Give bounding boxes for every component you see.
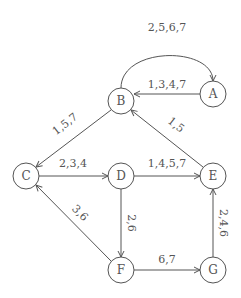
edge-label-g-e: 2,4,6 xyxy=(217,209,230,237)
svg-text:D: D xyxy=(116,169,126,183)
edge-label-c-d: 2,3,4 xyxy=(59,157,87,170)
node-c: C xyxy=(13,163,39,189)
svg-text:E: E xyxy=(209,169,218,183)
edge-f-c xyxy=(36,185,111,261)
edge-label-d-e: 1,4,5,7 xyxy=(148,157,186,170)
node-f: F xyxy=(108,257,134,283)
svg-text:F: F xyxy=(117,263,125,277)
svg-text:G: G xyxy=(208,263,218,277)
node-e: E xyxy=(200,163,226,189)
edge-label-e-b: 1,5 xyxy=(165,114,187,135)
svg-text:A: A xyxy=(208,87,218,101)
edge-label-f-c: 3,6 xyxy=(69,202,91,224)
svg-text:B: B xyxy=(117,94,126,108)
svg-text:C: C xyxy=(21,169,30,183)
node-b: B xyxy=(108,88,134,114)
node-g: G xyxy=(200,257,226,283)
edge-label-d-f: 2,6 xyxy=(125,214,138,232)
node-a: A xyxy=(200,81,226,107)
edge-label-f-g: 6,7 xyxy=(158,253,176,266)
graph-diagram: 2,5,6,7 1,3,4,7 1,5,7 1,5 2,3,4 1,4,5,7 … xyxy=(0,0,241,298)
edge-label-b-a: 2,5,6,7 xyxy=(148,21,186,34)
edge-label-b-c: 1,5,7 xyxy=(50,110,80,137)
node-d: D xyxy=(108,163,134,189)
edge-label-a-b: 1,3,4,7 xyxy=(148,78,186,91)
